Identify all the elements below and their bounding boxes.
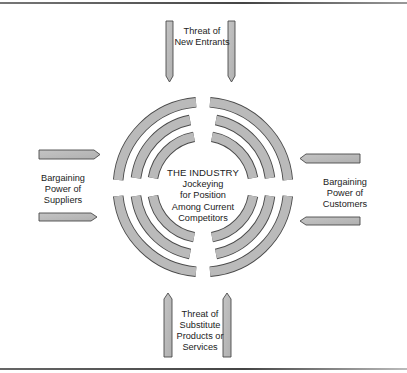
center-line: Jockeying xyxy=(148,179,258,191)
center-title: THE INDUSTRY xyxy=(148,167,258,179)
force-label-customers: Bargaining Power of Customers xyxy=(312,177,378,210)
label-line: Bargaining xyxy=(30,173,96,184)
label-line: Customers xyxy=(312,199,378,210)
label-line: Threat of xyxy=(170,26,234,37)
force-label-new-entrants: Threat of New Entrants xyxy=(170,26,234,48)
label-line: Power of xyxy=(30,184,96,195)
label-line: Substitute xyxy=(170,320,230,331)
arrow-left-icon xyxy=(300,154,360,163)
label-line: New Entrants xyxy=(170,37,234,48)
arrow-left-icon xyxy=(300,217,360,225)
label-line: Threat of xyxy=(170,309,230,320)
label-line: Power of xyxy=(312,188,378,199)
label-line: Suppliers xyxy=(30,195,96,206)
center-line: for Position xyxy=(148,190,258,202)
label-line: Services xyxy=(170,342,230,353)
center-line: Competitors xyxy=(148,213,258,225)
label-line: Bargaining xyxy=(312,177,378,188)
force-label-suppliers: Bargaining Power of Suppliers xyxy=(30,173,96,206)
force-label-substitutes: Threat of Substitute Products or Service… xyxy=(170,309,230,353)
label-line: Products or xyxy=(170,331,230,342)
center-line: Among Current xyxy=(148,202,258,214)
arrow-right-icon xyxy=(39,213,97,221)
industry-center-label: THE INDUSTRY Jockeying for Position Amon… xyxy=(148,167,258,225)
arrow-right-icon xyxy=(39,150,100,159)
